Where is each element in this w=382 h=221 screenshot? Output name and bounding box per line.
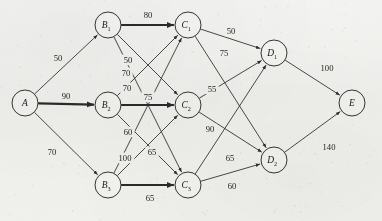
edge-weight-d2-e: 140: [323, 142, 336, 152]
node-b1[interactable]: B1: [95, 12, 121, 38]
edge-b2-to-c3: [118, 115, 178, 175]
edge-weight-a-b2: 90: [62, 91, 71, 101]
edge-weight-d1-e: 100: [321, 63, 334, 73]
node-label-e: E: [348, 98, 355, 108]
node-c3[interactable]: C3: [175, 172, 201, 198]
edge-weight-b2-c3: 65: [148, 147, 157, 157]
edge-weight-b2-c1: 70: [123, 83, 132, 93]
network-graph: AB1B2B3C1C2C3D1D2E 509070805060707565701…: [0, 0, 382, 221]
edge-weight-b1-c1: 80: [144, 10, 153, 20]
edge-a-to-b3: [35, 113, 98, 175]
edge-c3-to-d2: [201, 164, 260, 181]
node-c1[interactable]: C1: [175, 12, 201, 38]
edge-weight-b1-c2: 50: [124, 55, 133, 65]
edge-weight-c2-d1: 75: [220, 48, 229, 58]
edge-weight-b3-c1: 70: [122, 68, 131, 78]
node-c2[interactable]: C2: [175, 92, 201, 118]
node-e[interactable]: E: [339, 90, 365, 116]
node-b3[interactable]: B3: [95, 172, 121, 198]
edge-weight-a-b3: 70: [48, 147, 57, 157]
node-d1[interactable]: D1: [261, 40, 287, 66]
edge-weight-c2-d2: 65: [226, 153, 235, 163]
edge-weight-a-b1: 50: [54, 53, 63, 63]
edge-weight-c3-d1: 55: [208, 84, 217, 94]
edge-a-to-b2: [39, 103, 94, 104]
node-a[interactable]: A: [12, 90, 38, 116]
edge-weight-b3-c3: 65: [146, 193, 155, 203]
node-b2[interactable]: B2: [95, 92, 121, 118]
edge-weight-b3-c2: 100: [119, 153, 132, 163]
edge-weight-c1-d2: 90: [206, 124, 215, 134]
node-label-a: A: [21, 98, 28, 108]
node-d2[interactable]: D2: [261, 147, 287, 173]
edge-weight-c1-d1: 50: [227, 26, 236, 36]
edge-weight-b2-c2: 75: [144, 92, 153, 102]
edge-a-to-b1: [35, 35, 97, 94]
edge-weight-c3-d2: 60: [228, 181, 237, 191]
network-diagram-canvas: AB1B2B3C1C2C3D1D2E 509070805060707565701…: [0, 0, 382, 221]
edge-weight-b1-c3: 60: [124, 127, 133, 137]
